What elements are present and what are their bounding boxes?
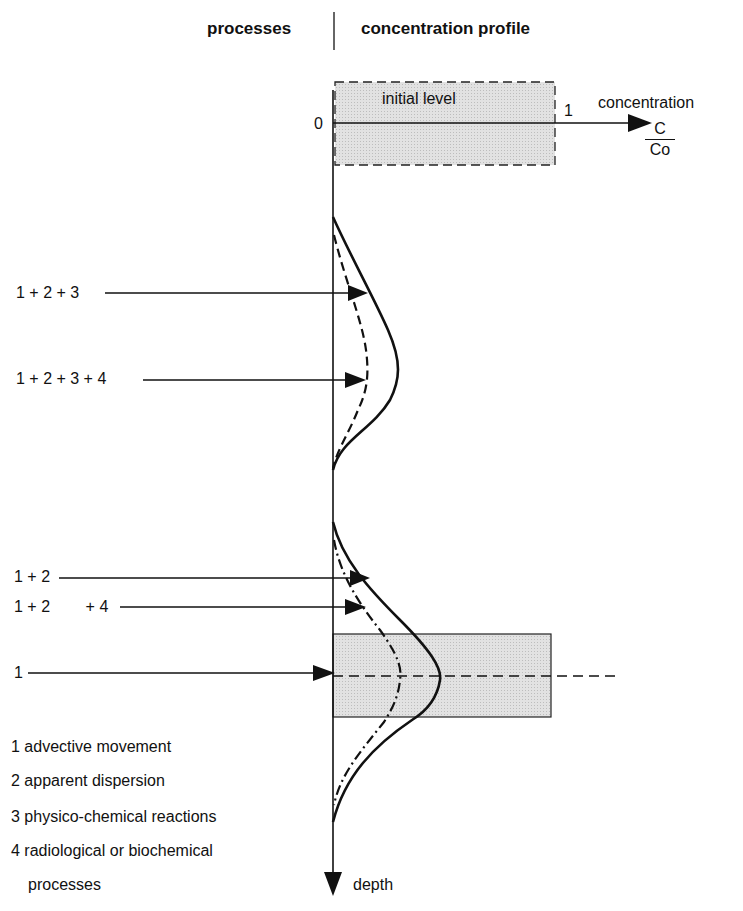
legend-item-4: 4 radiological or biochemical [11,843,213,859]
process-label-1-2-3-4: 1 + 2 + 3 + 4 [16,371,106,387]
legend-text: advective movement [24,738,171,755]
process-arrow-1-2-3 [105,285,368,301]
fraction-denominator: Co [645,140,675,158]
process-label-1: 1 [14,665,23,681]
x-tick-label: 1 [564,103,573,119]
upper-dashed-curve [333,235,367,468]
origin-label: 0 [314,116,323,132]
concentration-profile-header: concentration profile [361,20,530,37]
process-arrow-1-2 [59,570,370,586]
legend-number: 4 [11,842,20,859]
process-label-1-2-4: 1 + 2 + 4 [14,599,108,615]
legend-item-2: 2 apparent dispersion [11,773,165,789]
legend-number: 1 [11,738,20,755]
process-arrow-1 [28,665,335,681]
legend-item-4-continued: processes [28,877,101,893]
process-arrow-1-2-4 [120,599,366,615]
legend-text: apparent dispersion [24,772,165,789]
process-label-1-2: 1 + 2 [14,569,50,585]
fraction-numerator: C [645,121,675,140]
concentration-ratio: C Co [645,121,675,158]
initial-level-label: initial level [382,91,456,107]
legend-text: radiological or biochemical [24,842,213,859]
processes-header: processes [207,20,291,37]
x-axis-label: concentration [598,95,694,111]
depth-axis-arrowhead-icon [324,872,342,896]
legend-text: physico-chemical reactions [24,808,216,825]
y-axis-label: depth [353,877,393,893]
legend-item-1: 1 advective movement [11,739,171,755]
process-label-1-2-3: 1 + 2 + 3 [16,285,79,301]
legend-number: 3 [11,808,20,825]
legend-text: processes [28,876,101,893]
legend-number: 2 [11,772,20,789]
legend-item-3: 3 physico-chemical reactions [11,809,216,825]
